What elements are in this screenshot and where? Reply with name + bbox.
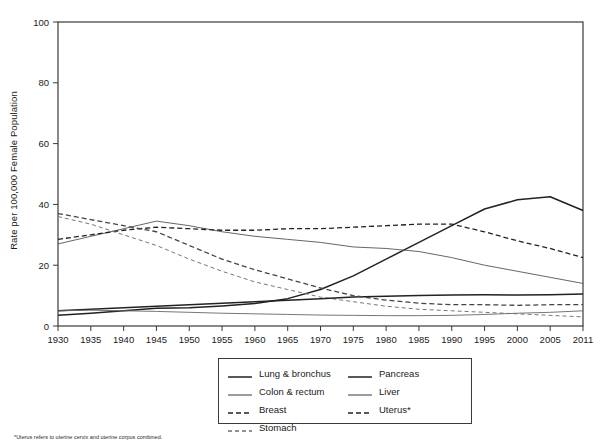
legend-label: Pancreas — [379, 368, 419, 379]
y-tick-label: 80 — [38, 77, 49, 88]
legend-label: Stomach — [259, 422, 297, 433]
y-tick-label: 40 — [38, 199, 49, 210]
legend-column-left: Lung & bronchusColon & rectumBreastStoma… — [227, 364, 347, 436]
x-tick-label: 1940 — [113, 334, 134, 345]
legend-label: Colon & rectum — [259, 386, 324, 397]
x-tick-label: 1985 — [408, 334, 429, 345]
x-tick-label: 1950 — [179, 334, 200, 345]
legend-label: Liver — [379, 386, 400, 397]
legend-grid: Lung & bronchusColon & rectumBreastStoma… — [227, 364, 467, 436]
legend-line-swatch — [347, 404, 373, 414]
y-tick-label: 60 — [38, 138, 49, 149]
y-tick-label: 20 — [38, 260, 49, 271]
legend-item[interactable]: Lung & bronchus — [227, 364, 347, 382]
x-tick-label: 1955 — [211, 334, 232, 345]
legend-column-right: PancreasLiverUterus* — [347, 364, 467, 436]
chart-footnote: *Uterus refers to uterine cervix and ute… — [14, 434, 162, 440]
legend-line-swatch — [227, 404, 253, 414]
legend-line-swatch — [347, 386, 373, 396]
y-tick-label: 0 — [44, 321, 49, 332]
x-tick-label: 1960 — [244, 334, 265, 345]
x-tick-label: 1945 — [146, 334, 167, 345]
legend-label: Uterus* — [379, 404, 411, 415]
series-line-uterus — [58, 214, 583, 306]
legend-line-swatch — [227, 386, 253, 396]
y-axis-ticks: 020406080100 — [33, 17, 58, 332]
plot-frame — [58, 22, 583, 326]
legend-item[interactable]: Liver — [347, 382, 467, 400]
x-tick-label: 1990 — [441, 334, 462, 345]
x-axis-ticks: 1930193519401945195019551960196519701975… — [47, 326, 593, 345]
x-tick-label: 2011 — [573, 334, 593, 345]
legend-item[interactable]: Pancreas — [347, 364, 467, 382]
legend-line-swatch — [227, 422, 253, 432]
legend-item[interactable]: Stomach — [227, 418, 347, 436]
plot-border — [58, 22, 583, 326]
chart-figure: Rate per 100,000 Female Population 02040… — [0, 0, 600, 442]
x-tick-label: 1935 — [80, 334, 101, 345]
legend-line-swatch — [347, 368, 373, 378]
data-series-group — [58, 197, 583, 317]
legend-label: Lung & bronchus — [259, 368, 331, 379]
y-tick-label: 100 — [33, 17, 49, 28]
x-tick-label: 1995 — [474, 334, 495, 345]
legend-item[interactable]: Colon & rectum — [227, 382, 347, 400]
x-tick-label: 1930 — [47, 334, 68, 345]
x-tick-label: 2000 — [507, 334, 528, 345]
x-tick-label: 1965 — [277, 334, 298, 345]
series-line-pancreas — [58, 294, 583, 311]
series-line-colon-rectum — [58, 221, 583, 283]
x-tick-label: 2005 — [540, 334, 561, 345]
chart-legend: Lung & bronchusColon & rectumBreastStoma… — [218, 358, 472, 424]
x-tick-label: 1980 — [376, 334, 397, 345]
legend-line-swatch — [227, 368, 253, 378]
series-line-liver — [58, 310, 583, 315]
legend-label: Breast — [259, 404, 286, 415]
x-tick-label: 1975 — [343, 334, 364, 345]
series-line-stomach — [58, 217, 583, 317]
x-tick-label: 1970 — [310, 334, 331, 345]
legend-item[interactable]: Uterus* — [347, 400, 467, 418]
legend-item[interactable]: Breast — [227, 400, 347, 418]
series-line-breast — [58, 224, 583, 257]
